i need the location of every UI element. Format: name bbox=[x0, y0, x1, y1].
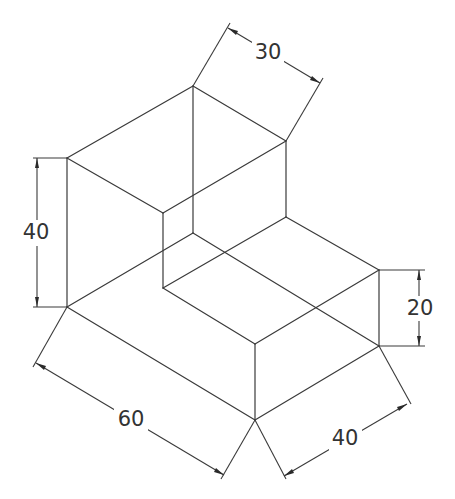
dimension-left-height: 40 bbox=[22, 158, 67, 307]
dimension-top-depth: 30 bbox=[193, 23, 323, 141]
extension-line bbox=[221, 420, 255, 479]
arrowhead-icon bbox=[228, 28, 238, 35]
extension-line bbox=[286, 78, 323, 141]
dimension-label-30: 30 bbox=[255, 40, 282, 64]
edge-top-back bbox=[193, 86, 286, 141]
arrowhead-icon bbox=[284, 469, 294, 476]
edge-top-front bbox=[67, 158, 163, 213]
arrowhead-icon bbox=[417, 270, 421, 280]
arrowhead-icon bbox=[36, 363, 46, 370]
extension-line bbox=[255, 420, 286, 479]
drawing-svg: 30 40 20 bbox=[0, 0, 455, 499]
edge-step-left bbox=[163, 288, 255, 344]
arrowhead-icon bbox=[214, 468, 224, 475]
extension-line bbox=[193, 23, 230, 86]
dimension-step-height: 20 bbox=[379, 270, 435, 346]
extension-line bbox=[379, 346, 411, 404]
arrowhead-icon bbox=[35, 297, 39, 307]
extension-line bbox=[33, 307, 67, 367]
dimension-front-width: 40 bbox=[255, 346, 411, 479]
dimension-label-60: 60 bbox=[118, 407, 145, 431]
edge-bottom-right bbox=[255, 346, 379, 420]
arrowhead-icon bbox=[310, 76, 320, 83]
edge-top-right bbox=[163, 141, 286, 213]
object-edges bbox=[67, 86, 379, 420]
arrowhead-icon bbox=[397, 404, 407, 411]
dimension-label-20: 20 bbox=[407, 296, 434, 320]
edge-inner-diagonal-b bbox=[67, 233, 193, 307]
dimension-front-length: 60 bbox=[33, 307, 255, 479]
dimension-label-40-vertical: 40 bbox=[23, 220, 50, 244]
isometric-drawing: 30 40 20 bbox=[0, 0, 455, 499]
edge-inner-diagonal-a bbox=[193, 233, 379, 346]
edge-bottom-left bbox=[67, 307, 255, 420]
dimension-label-40-bottom: 40 bbox=[332, 426, 359, 450]
edge-top-left bbox=[67, 86, 193, 158]
arrowhead-icon bbox=[417, 336, 421, 346]
arrowhead-icon bbox=[35, 158, 39, 168]
edge-step-front bbox=[255, 270, 379, 344]
edge-step-right bbox=[286, 217, 379, 270]
